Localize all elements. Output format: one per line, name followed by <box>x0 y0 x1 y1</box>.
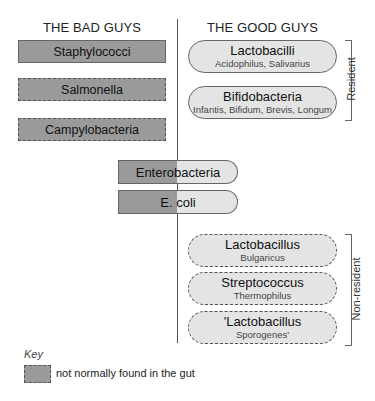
label-right-part: coli <box>176 195 196 210</box>
item-title: Bifidobacteria <box>223 89 302 104</box>
good-guys-heading: THE GOOD GUYS <box>188 20 337 35</box>
item-title: Lactobacillus <box>225 237 300 252</box>
mixed-item-enterobacteria: Enterobacteria <box>118 160 238 184</box>
bad-guys-heading: THE BAD GUYS <box>18 20 166 35</box>
key-entry-text: not normally found in the gut <box>56 367 195 379</box>
label-left-part: Entero <box>136 165 174 180</box>
nonresident-label: Non-resident <box>350 249 364 329</box>
key-title: Key <box>24 348 43 360</box>
key-swatch <box>24 365 51 383</box>
mixed-item-ecoli: E. coli <box>118 190 238 214</box>
mixed-item-label: Enterobacteria <box>118 160 238 184</box>
bad-item-label: Campylobacteria <box>45 123 139 137</box>
item-title: Streptococcus <box>221 275 303 290</box>
item-subtitle: Bulgaricus <box>240 252 284 264</box>
item-subtitle: Infantis, Bifidum, Brevis, Longum <box>193 104 332 116</box>
item-subtitle: Acidophilus, Salivarius <box>215 58 310 70</box>
resident-item-lactobacilli: Lactobacilli Acidophilus, Salivarius <box>188 40 337 73</box>
item-title: 'Lactobacillus <box>224 314 302 329</box>
nonresident-item-streptococcus: Streptococcus Thermophilus <box>188 272 337 305</box>
label-right-part: bacteria <box>174 165 220 180</box>
mixed-item-label: E. coli <box>118 190 238 214</box>
bad-item-staphylococci: Staphylococci <box>18 40 166 63</box>
bad-item-campylobacteria: Campylobacteria <box>18 118 166 141</box>
nonresident-item-sporogenes: 'Lactobacillus Sporogenes' <box>188 311 337 344</box>
bad-item-salmonella: Salmonella <box>18 78 166 101</box>
label-left-part: E. <box>160 195 172 210</box>
resident-label: Resident <box>345 49 359 109</box>
bad-item-label: Staphylococci <box>53 45 130 59</box>
item-subtitle: Thermophilus <box>234 290 292 302</box>
item-subtitle: Sporogenes' <box>236 329 289 341</box>
resident-item-bifidobacteria: Bifidobacteria Infantis, Bifidum, Brevis… <box>188 86 337 119</box>
nonresident-item-lactobacillus: Lactobacillus Bulgaricus <box>188 234 337 267</box>
bad-item-label: Salmonella <box>61 83 123 97</box>
item-title: Lactobacilli <box>230 43 294 58</box>
